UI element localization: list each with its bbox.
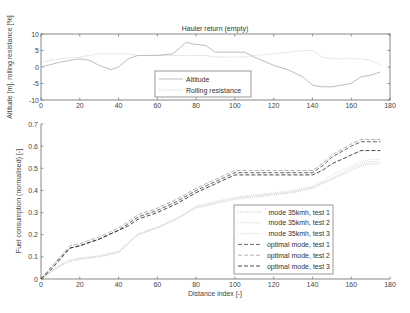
bottom-x-tick: 60 bbox=[153, 281, 161, 288]
bottom-x-tick: 80 bbox=[192, 281, 200, 288]
bottom-x-tick: 40 bbox=[115, 281, 123, 288]
top-y-tick: -5 bbox=[33, 80, 39, 87]
bottom-x-tick: 20 bbox=[76, 281, 84, 288]
bottom-x-tick: 140 bbox=[307, 281, 319, 288]
top-x-tick: 140 bbox=[307, 102, 319, 109]
top-y-axis-label: Altitude [m], rolling resistance [%] bbox=[6, 15, 14, 119]
legend-label-rolling-resistance: Rolling resistance bbox=[186, 87, 241, 95]
top-legend: Altitude Rolling resistance bbox=[155, 71, 251, 97]
top-x-tick: 180 bbox=[384, 102, 396, 109]
bottom-y-tick: 0.2 bbox=[28, 231, 38, 238]
bottom-x-axis-label: Distance index [-] bbox=[188, 290, 242, 298]
bottom-x-tick: 0 bbox=[39, 281, 43, 288]
legend-label-altitude: Altitude bbox=[186, 76, 209, 83]
bottom-legend: mode 35kmh, test 1mode 35kmh, test 2mode… bbox=[234, 205, 333, 274]
bottom-y-tick: 0.6 bbox=[28, 143, 38, 150]
bottom-plot: 02040608010012014016018000.10.20.30.40.5… bbox=[15, 121, 396, 299]
top-x-tick: 40 bbox=[115, 102, 123, 109]
legend-label: optimal mode, test 3 bbox=[267, 263, 330, 271]
legend-label: optimal mode, test 2 bbox=[267, 252, 330, 260]
top-y-tick: 10 bbox=[31, 31, 39, 38]
top-x-tick: 60 bbox=[153, 102, 161, 109]
bottom-y-axis-label: Fuel consumption (normalised) [-] bbox=[15, 149, 23, 253]
top-x-tick: 120 bbox=[268, 102, 280, 109]
bottom-y-tick: 0.4 bbox=[28, 187, 38, 194]
bottom-x-tick: 120 bbox=[268, 281, 280, 288]
bottom-y-tick: 0.7 bbox=[28, 121, 38, 128]
legend-label: mode 35kmh, test 3 bbox=[269, 230, 331, 237]
bottom-y-tick: 0.5 bbox=[28, 165, 38, 172]
bottom-x-tick: 180 bbox=[384, 281, 396, 288]
top-y-tick: 5 bbox=[35, 47, 39, 54]
top-y-tick: -10 bbox=[29, 97, 39, 104]
legend-label: mode 35kmh, test 2 bbox=[269, 219, 331, 226]
top-y-tick: 0 bbox=[35, 64, 39, 71]
legend-label: mode 35kmh, test 1 bbox=[269, 209, 331, 216]
top-x-tick: 160 bbox=[345, 102, 357, 109]
bottom-x-tick: 160 bbox=[345, 281, 357, 288]
top-x-tick: 100 bbox=[229, 102, 241, 109]
bottom-x-tick: 100 bbox=[229, 281, 241, 288]
top-plot-title: Hauler return (empty) bbox=[182, 25, 249, 33]
bottom-y-tick: 0 bbox=[34, 276, 38, 283]
top-x-tick: 20 bbox=[76, 102, 84, 109]
figure: Hauler return (empty) 020406080100120140… bbox=[0, 0, 410, 313]
legend-label: optimal mode, test 1 bbox=[267, 241, 330, 249]
top-plot: Hauler return (empty) 020406080100120140… bbox=[6, 15, 396, 119]
top-x-tick: 80 bbox=[192, 102, 200, 109]
top-x-tick: 0 bbox=[39, 102, 43, 109]
top-series-line bbox=[41, 51, 380, 66]
bottom-y-tick: 0.3 bbox=[28, 209, 38, 216]
bottom-y-tick: 0.1 bbox=[28, 253, 38, 260]
